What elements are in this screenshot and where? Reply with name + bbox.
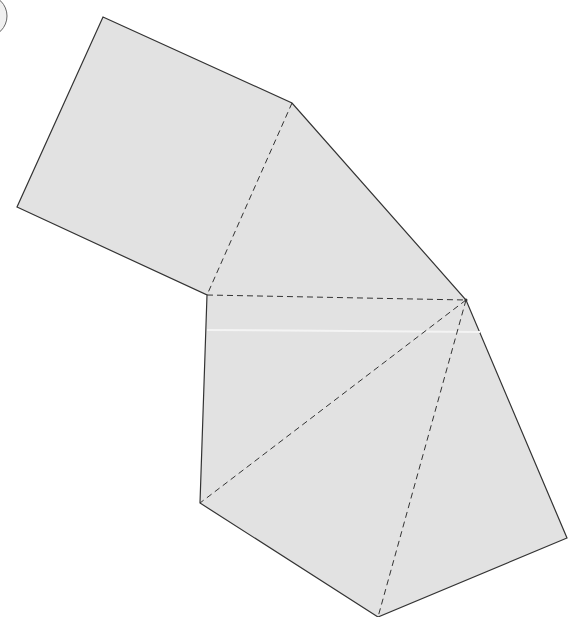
net-fill xyxy=(17,17,567,617)
partial-circle-marker xyxy=(0,0,7,37)
apex-vertex xyxy=(465,299,468,302)
polyhedron-net-diagram xyxy=(0,0,569,617)
